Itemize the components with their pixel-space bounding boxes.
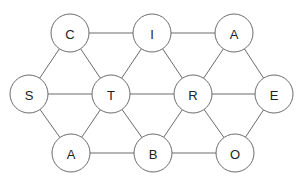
node-label: E	[270, 88, 279, 103]
node-label: A	[67, 147, 76, 162]
node-label: S	[25, 88, 34, 103]
node-e: E	[255, 75, 293, 113]
node-a2: A	[52, 134, 90, 172]
node-label: B	[149, 147, 158, 162]
node-label: I	[150, 27, 154, 42]
node-label: R	[188, 88, 197, 103]
node-a1: A	[215, 14, 253, 52]
node-c: C	[51, 14, 89, 52]
node-label: C	[65, 27, 74, 42]
node-label: A	[230, 27, 239, 42]
nodes-layer: CIASTREABO	[10, 14, 293, 172]
node-i: I	[133, 14, 171, 52]
node-label: O	[230, 147, 240, 162]
node-t: T	[92, 75, 130, 113]
node-r: R	[174, 75, 212, 113]
node-b: B	[134, 134, 172, 172]
letter-graph-diagram: CIASTREABO	[0, 0, 303, 179]
node-s: S	[10, 75, 48, 113]
node-label: T	[107, 88, 115, 103]
node-o: O	[216, 134, 254, 172]
